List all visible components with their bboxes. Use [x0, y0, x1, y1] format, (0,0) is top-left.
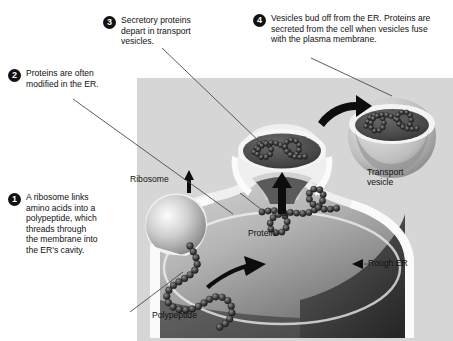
- step-1-text: A ribosome links amino acids into a poly…: [26, 192, 98, 256]
- step-1-badge: 1: [8, 193, 21, 206]
- label-polypeptide: Polypeptide: [152, 310, 197, 320]
- step-2-text: Proteins are often modified in the ER.: [26, 68, 108, 89]
- label-ribosome: Ribosome: [130, 174, 169, 184]
- leader-step-3: [162, 48, 262, 144]
- figure-canvas: 1 A ribosome links amino acids into a po…: [0, 0, 453, 341]
- step-4-text: Vesicles bud off from the ER. Proteins a…: [271, 13, 443, 45]
- step-4-badge: 4: [253, 14, 266, 27]
- step-3-badge: 3: [103, 16, 116, 29]
- leader-step-4: [311, 58, 392, 96]
- label-rough-er: Rough ER: [368, 258, 408, 268]
- step-2-badge: 2: [8, 69, 21, 82]
- label-protein: Protein: [248, 228, 275, 238]
- label-transport-vesicle: Transport vesicle: [367, 167, 413, 187]
- step-3-text: Secretory proteins depart in transport v…: [121, 15, 205, 47]
